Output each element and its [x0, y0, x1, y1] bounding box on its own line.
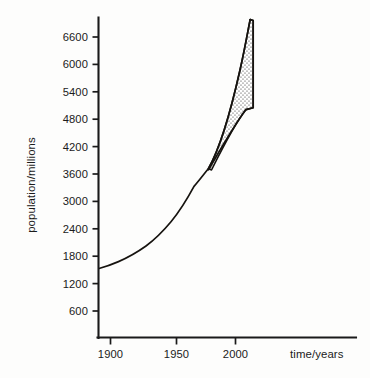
y-tick-label-5400: 5400 [63, 86, 88, 98]
x-tick-label-1950: 1950 [164, 348, 189, 360]
y-tick-label-600: 600 [69, 305, 88, 317]
y-tick-label-3000: 3000 [63, 195, 88, 207]
x-axis-title: time/years [290, 348, 344, 360]
x-tick-label-1900: 1900 [98, 348, 123, 360]
y-tick-label-1200: 1200 [63, 278, 88, 290]
x-axis: 1900 1950 2000 time/years [98, 338, 357, 361]
population-growth-chart: 6600 6000 5400 4800 4200 3600 3000 2400 … [0, 0, 370, 378]
y-tick-label-1800: 1800 [63, 250, 88, 262]
chart-canvas: 6600 6000 5400 4800 4200 3600 3000 2400 … [0, 0, 370, 378]
y-axis-title: population/millions [25, 137, 37, 233]
y-tick-label-6600: 6600 [63, 31, 88, 43]
y-tick-label-4200: 4200 [63, 141, 88, 153]
y-axis: 6600 6000 5400 4800 4200 3600 3000 2400 … [25, 18, 99, 339]
x-tick-label-2000: 2000 [223, 348, 248, 360]
y-tick-label-6000: 6000 [63, 58, 88, 70]
plot-area [99, 20, 253, 269]
y-tick-label-3600: 3600 [63, 168, 88, 180]
historic-population-curve [99, 169, 209, 269]
y-tick-label-4800: 4800 [63, 113, 88, 125]
y-tick-label-2400: 2400 [63, 223, 88, 235]
